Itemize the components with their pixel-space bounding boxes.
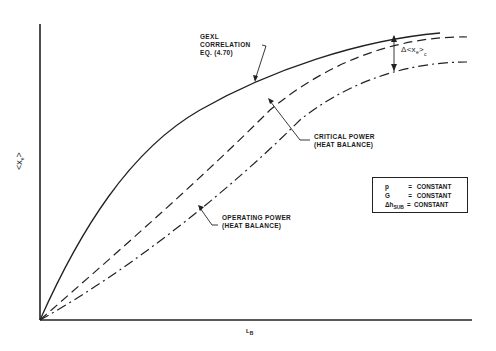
critical-power-label: CRITICAL POWER (HEAT BALANCE): [314, 133, 375, 149]
legend-row-g: G= CONSTANT: [385, 191, 467, 200]
legend-value: CONSTANT: [417, 183, 452, 190]
y-axis-sub: e: [19, 157, 25, 160]
x-axis-label: LB: [246, 328, 253, 334]
critical-leader: [270, 101, 310, 140]
critical-arrowhead: [268, 98, 274, 104]
delta-sub-e: e: [416, 49, 419, 55]
legend-eq: =: [405, 182, 415, 191]
delta-annotation: Δ<xe>c: [401, 46, 427, 54]
legend-symbol-group: ΔhSUB: [385, 200, 404, 210]
operating-power-label: OPERATING POWER (HEAT BALANCE): [222, 214, 291, 230]
delta-sub-c: c: [424, 51, 427, 57]
legend-eq: =: [404, 200, 414, 209]
gexl-label-line1: GEXL: [200, 33, 250, 41]
operating-label-line2: (HEAT BALANCE): [222, 222, 291, 230]
legend-eq: =: [405, 191, 415, 200]
gexl-label-line3: EQ. (4.70): [200, 49, 250, 57]
legend-symbol: p: [385, 182, 405, 191]
y-axis-main: <x: [14, 160, 24, 170]
delta-arrow-down: [391, 64, 397, 71]
y-axis-label: <xe>: [14, 152, 24, 170]
legend-box: p= CONSTANT G= CONSTANT ΔhSUB=CONSTANT: [372, 177, 468, 213]
gexl-leader: [255, 45, 266, 80]
operating-label-line1: OPERATING POWER: [222, 214, 291, 222]
gexl-label: GEXL CORRELATION EQ. (4.70): [200, 33, 250, 57]
x-axis-sub: B: [250, 330, 254, 336]
legend-value: CONSTANT: [417, 192, 452, 199]
gexl-label-line2: CORRELATION: [200, 41, 250, 49]
legend-value: CONSTANT: [414, 201, 449, 208]
legend-row-dhsub: ΔhSUB=CONSTANT: [385, 200, 467, 210]
legend-symbol-sub: SUB: [393, 204, 404, 210]
legend-row-p: p= CONSTANT: [385, 182, 467, 191]
operating-leader: [200, 208, 218, 225]
critical-label-line1: CRITICAL POWER: [314, 133, 375, 141]
critical-label-line2: (HEAT BALANCE): [314, 141, 375, 149]
delta-main: Δ<x: [401, 45, 416, 54]
legend-symbol: G: [385, 191, 405, 200]
